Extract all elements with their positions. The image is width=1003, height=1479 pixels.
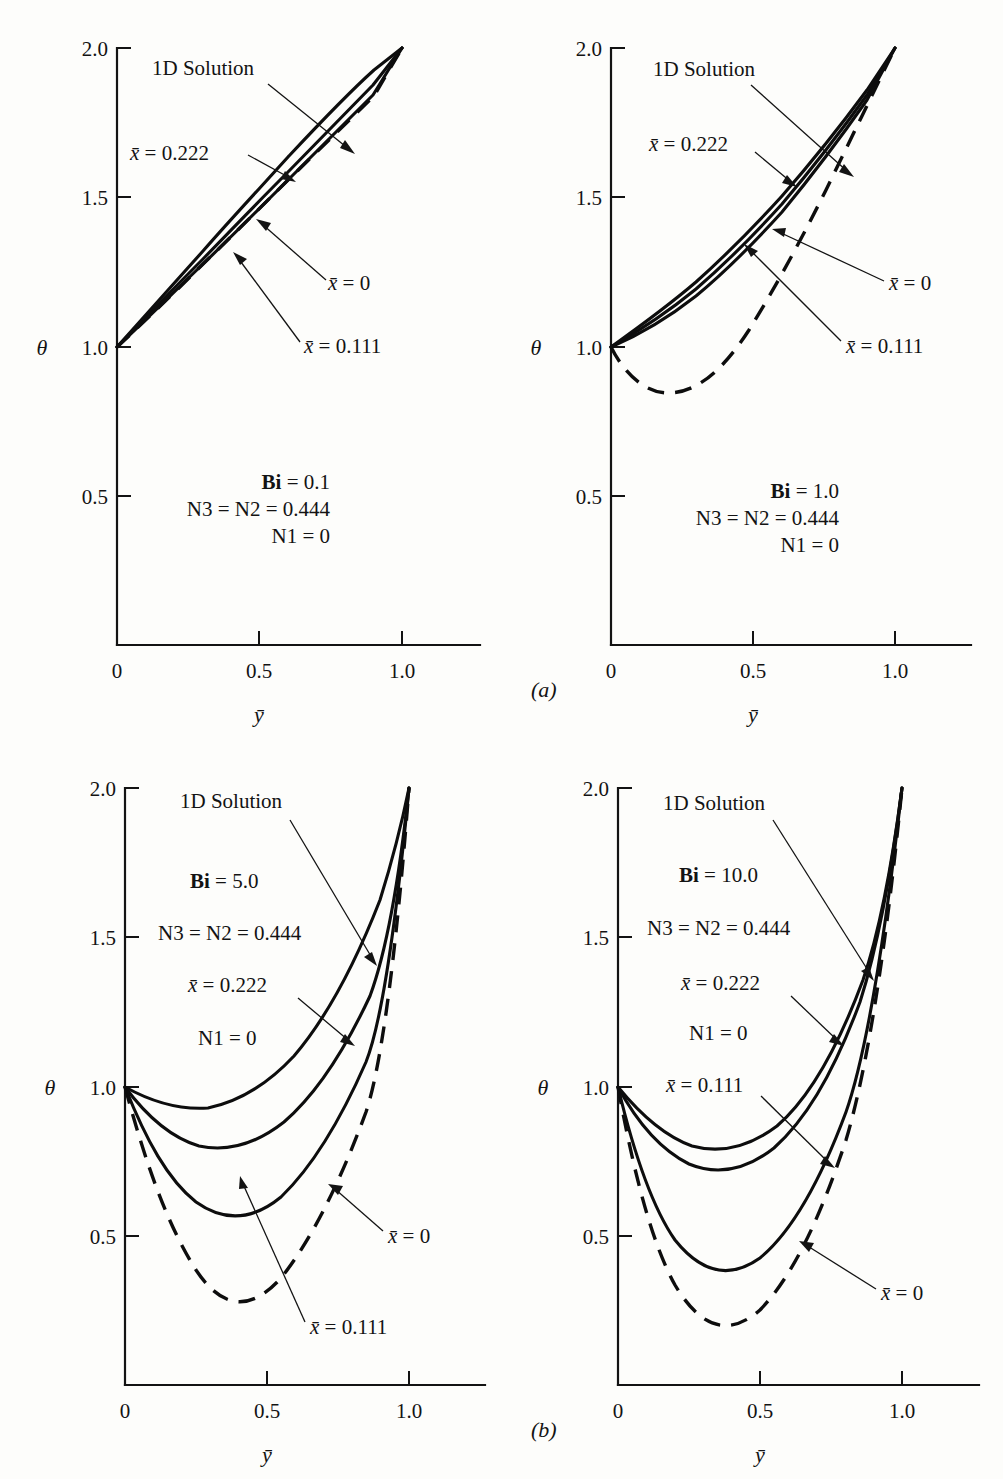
leader-xbar-0-111 [238, 258, 300, 342]
label-xbar-0: x̄ = 0 [888, 271, 931, 295]
annotations-group: 1D Solution Bi = 10.0 N3 = N2 = 0.444 x̄… [531, 791, 923, 1442]
leader-xbar-0 [262, 224, 326, 280]
x-axis-label: ȳ [746, 702, 759, 727]
x-tick-label-0: 0 [606, 659, 617, 683]
leader-head-xbar-0-111 [233, 252, 247, 265]
parameter-block: Bi = 1.0 N3 = N2 = 0.444 N1 = 0 [696, 479, 840, 557]
label-xbar-0-222: x̄ = 0.222 [187, 973, 267, 997]
leader-xbar-0 [806, 1245, 876, 1289]
curve-xbar-0-222 [618, 788, 902, 1149]
x-tick-label-1-0: 1.0 [389, 659, 415, 683]
y-tick-label-1-5: 1.5 [90, 926, 116, 950]
panel-letter-a: (a) [531, 677, 557, 702]
x-axis-label: ȳ [260, 1442, 273, 1467]
param-bi: Bi = 1.0 [771, 479, 839, 503]
label-xbar-0-111: x̄ = 0.111 [665, 1073, 743, 1097]
panel-letter-b: (b) [531, 1417, 557, 1442]
x-axis-label: ȳ [753, 1442, 766, 1467]
y-tick-label-0-5: 0.5 [82, 485, 108, 509]
param-bi: Bi = 0.1 [262, 470, 330, 494]
curve-xbar-0-111 [125, 788, 409, 1148]
x-tick-label-1-0: 1.0 [396, 1399, 422, 1423]
leader-1d-solution [290, 820, 372, 958]
leader-xbar-0-111 [750, 250, 841, 341]
leader-xbar-0-222 [298, 998, 348, 1040]
param-n1: N1 = 0 [271, 524, 330, 548]
axes-group [125, 788, 485, 1385]
param-n1: N1 = 0 [198, 1026, 257, 1050]
y-tick-label-1-0: 1.0 [583, 1076, 609, 1100]
leader-xbar-0-222 [791, 996, 837, 1040]
label-xbar-0-222: x̄ = 0.222 [129, 141, 209, 165]
curve-1d-solution [618, 788, 902, 1326]
x-tick-label-0-5: 0.5 [254, 1399, 280, 1423]
label-xbar-0: x̄ = 0 [387, 1224, 430, 1248]
curve-xbar-0-222 [611, 48, 895, 347]
param-n3-n2: N3 = N2 = 0.444 [647, 916, 791, 940]
y-tick-label-1-0: 1.0 [90, 1076, 116, 1100]
param-n1: N1 = 0 [689, 1021, 748, 1045]
label-xbar-0-222: x̄ = 0.222 [680, 971, 760, 995]
y-axis-label: θ [37, 335, 48, 360]
x-tick-label-1-0: 1.0 [889, 1399, 915, 1423]
y-tick-label-1-5: 1.5 [82, 186, 108, 210]
curve-xbar-0-111 [611, 48, 895, 347]
chart-panel-bi-5-0: 2.0 1.5 1.0 0.5 0 0.5 1.0 θ ȳ 1D Soluti… [0, 740, 501, 1479]
leader-xbar-0-111 [243, 1184, 305, 1322]
curve-xbar-0-111 [117, 48, 402, 347]
curves-group [125, 788, 409, 1302]
curve-xbar-0 [618, 788, 902, 1270]
param-n1: N1 = 0 [780, 533, 839, 557]
y-tick-label-0-5: 0.5 [576, 485, 602, 509]
y-axis-label: θ [531, 335, 542, 360]
leader-head-xbar-0 [799, 1241, 814, 1252]
x-tick-label-0: 0 [112, 659, 123, 683]
y-axis-label: θ [45, 1075, 56, 1100]
x-tick-label-0: 0 [613, 1399, 624, 1423]
curves-group [117, 48, 402, 347]
leader-head-xbar-0 [772, 228, 786, 237]
y-tick-label-2-0: 2.0 [90, 777, 116, 801]
leader-xbar-0 [779, 232, 884, 281]
label-1d-solution: 1D Solution [653, 57, 756, 81]
label-xbar-0: x̄ = 0 [880, 1281, 923, 1305]
leader-head-1d-solution [364, 952, 377, 966]
param-n3-n2: N3 = N2 = 0.444 [696, 506, 840, 530]
y-tick-label-1-0: 1.0 [82, 336, 108, 360]
leader-1d-solution [751, 85, 848, 172]
annotations-group: 1D Solution x̄ = 0.222 x̄ = 0 x̄ = 0.111 [129, 56, 381, 548]
leader-xbar-0 [335, 1189, 383, 1231]
x-tick-label-0: 0 [120, 1399, 131, 1423]
leader-1d-solution [268, 84, 350, 150]
y-tick-label-1-0: 1.0 [576, 336, 602, 360]
curves-group [618, 788, 902, 1326]
label-1d-solution: 1D Solution [180, 789, 283, 813]
y-tick-label-2-0: 2.0 [583, 777, 609, 801]
label-xbar-0-111: x̄ = 0.111 [845, 334, 923, 358]
figure-sheet: 2.0 1.5 1.0 0.5 0 0.5 1.0 θ ȳ 1D Soluti… [0, 0, 1003, 1479]
label-xbar-0-222: x̄ = 0.222 [648, 132, 728, 156]
chart-panel-bi-0-1: 2.0 1.5 1.0 0.5 0 0.5 1.0 θ ȳ 1D Soluti… [0, 0, 501, 739]
curve-1d-solution [125, 788, 409, 1302]
label-1d-solution: 1D Solution [152, 56, 255, 80]
chart-panel-bi-1-0: 2.0 1.5 1.0 0.5 0 0.5 1.0 θ ȳ 1D Soluti… [501, 0, 1002, 739]
x-tick-label-1-0: 1.0 [882, 659, 908, 683]
y-tick-label-1-5: 1.5 [583, 926, 609, 950]
param-bi: Bi = 5.0 [190, 869, 258, 893]
y-tick-label-0-5: 0.5 [583, 1225, 609, 1249]
x-axis-label: ȳ [252, 702, 265, 727]
tick-labels-group: 2.0 1.5 1.0 0.5 0 0.5 1.0 θ ȳ [37, 37, 416, 727]
leader-1d-solution [773, 820, 869, 972]
x-tick-label-0-5: 0.5 [740, 659, 766, 683]
label-xbar-0-111: x̄ = 0.111 [309, 1315, 387, 1339]
param-bi: Bi = 10.0 [679, 863, 758, 887]
param-n3-n2: N3 = N2 = 0.444 [187, 497, 331, 521]
x-tick-label-0-5: 0.5 [747, 1399, 773, 1423]
y-tick-label-1-5: 1.5 [576, 186, 602, 210]
axes-group [117, 48, 480, 645]
annotations-group: 1D Solution x̄ = 0.222 x̄ = 0 x̄ = 0.111 [531, 57, 931, 702]
label-xbar-0: x̄ = 0 [327, 271, 370, 295]
y-axis-label: θ [538, 1075, 549, 1100]
param-n3-n2: N3 = N2 = 0.444 [158, 921, 302, 945]
label-1d-solution: 1D Solution [663, 791, 766, 815]
